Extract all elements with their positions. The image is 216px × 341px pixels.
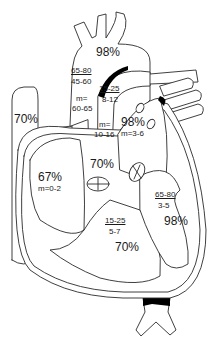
pa-mean-label: m= xyxy=(99,121,110,129)
rv-outflow-saturation: 70% xyxy=(90,158,114,170)
pa-pressure-top: 15-25 xyxy=(99,85,119,93)
lv-pressure-bottom: 3-5 xyxy=(158,202,170,210)
aorta-pressure-bottom: 45-60 xyxy=(71,78,91,86)
aorta-pressure-top: 65-80 xyxy=(71,67,91,75)
aorta-mean-label: m= xyxy=(76,95,87,103)
ra-saturation: 67% xyxy=(38,171,62,183)
rv-pressure-top: 15-25 xyxy=(105,217,125,225)
pa-pressure-bottom: 8-12 xyxy=(102,96,118,104)
rv-pressure-bottom: 5-7 xyxy=(109,228,121,236)
aorta-saturation: 98% xyxy=(96,46,120,58)
ra-mean: m=0-2 xyxy=(38,185,61,193)
rv-saturation: 70% xyxy=(115,241,139,253)
lv-saturation: 98% xyxy=(164,215,188,227)
svc-saturation: 70% xyxy=(14,113,38,125)
lv-pressure-top: 65-80 xyxy=(155,191,175,199)
heart-diagram: ··········· xyxy=(0,0,216,341)
la-saturation: 98% xyxy=(121,116,145,128)
aorta-mean-value: 60-65 xyxy=(72,105,92,113)
pa-mean-value: 10-16 xyxy=(94,131,114,139)
la-mean: m=3-6 xyxy=(121,130,144,138)
